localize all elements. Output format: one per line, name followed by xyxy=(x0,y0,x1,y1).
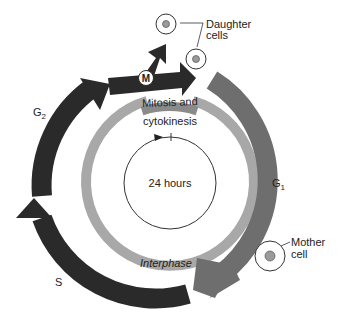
mother-cell xyxy=(255,241,285,271)
mitosis-label-line2: cytokinesis xyxy=(143,115,197,127)
mitosis-label-line1: Mitosis and xyxy=(142,95,198,109)
mother-callout-line xyxy=(281,242,290,246)
daughter-callout-line xyxy=(180,23,203,47)
m-phase-label: M xyxy=(142,73,150,84)
daughter-cell-2 xyxy=(186,49,206,69)
mother-label-line2: cell xyxy=(291,248,308,260)
interphase-label: Interphase xyxy=(140,257,192,269)
daughter-cell-1 xyxy=(156,14,176,34)
s-arrowhead-icon xyxy=(16,198,52,218)
timer-arrowhead-icon xyxy=(154,134,163,141)
cell-cycle-diagram: M Mitosis and cytokinesis Interphase 24 … xyxy=(0,0,340,313)
mother-label-line1: Mother xyxy=(291,236,326,248)
s-label: S xyxy=(55,276,62,288)
center-duration-label: 24 hours xyxy=(149,177,192,189)
g2-label: G2 xyxy=(33,106,47,121)
daughter-label-line2: cells xyxy=(206,29,229,41)
